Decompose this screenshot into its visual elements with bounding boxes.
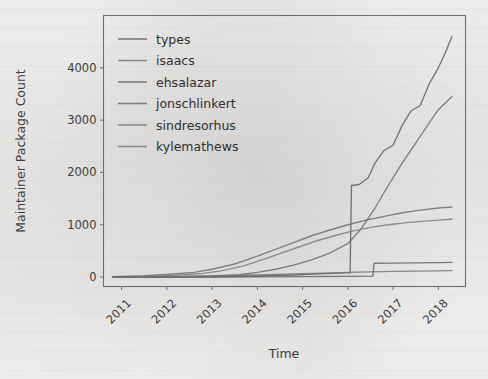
line-chart: 01000200030004000 2011201220132014201520…: [0, 0, 488, 379]
legend-label-kylemathews: kylemathews: [156, 139, 238, 154]
legend-label-jonschlinkert: jonschlinkert: [155, 96, 236, 111]
x-tick-label: 2015: [284, 296, 315, 327]
y-axis-title: Maintainer Package Count: [13, 69, 28, 233]
y-tick-label: 2000: [67, 165, 96, 179]
series-line-types: [113, 36, 452, 277]
x-tick-label: 2017: [375, 296, 406, 327]
x-tick-label: 2011: [103, 296, 134, 327]
y-tick-label: 4000: [67, 61, 96, 75]
legend-label-types: types: [156, 32, 190, 47]
series-lines: [113, 36, 452, 277]
y-tick-label: 0: [89, 270, 96, 284]
legend-label-ehsalazar: ehsalazar: [156, 75, 217, 90]
x-tick-label: 2014: [239, 296, 270, 327]
x-tick-label: 2012: [149, 296, 180, 327]
y-axis-ticks: 01000200030004000: [67, 61, 103, 284]
legend-label-sindresorhus: sindresorhus: [156, 118, 236, 133]
x-tick-label: 2016: [330, 296, 361, 327]
chart-figure: 01000200030004000 2011201220132014201520…: [0, 0, 488, 379]
x-tick-label: 2013: [194, 296, 225, 327]
legend-label-isaacs: isaacs: [156, 53, 195, 68]
x-axis-title: Time: [268, 346, 300, 361]
x-tick-label: 2018: [420, 296, 451, 327]
y-tick-label: 1000: [67, 218, 96, 232]
y-tick-label: 3000: [67, 113, 96, 127]
series-line-isaacs: [113, 207, 452, 277]
x-axis-ticks: 20112012201320142015201620172018: [103, 287, 450, 327]
chart-legend: typesisaacsehsalazarjonschlinkertsindres…: [118, 32, 238, 155]
